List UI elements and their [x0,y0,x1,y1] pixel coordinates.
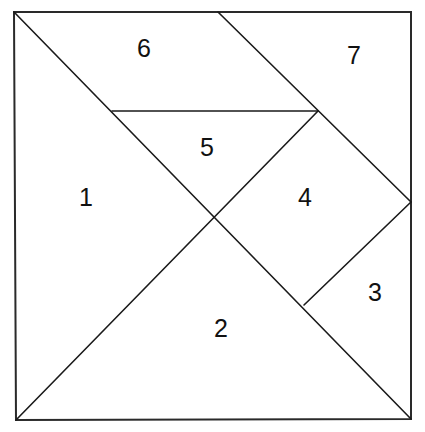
piece-label-1: 1 [79,183,93,211]
tangram-diagram: 1 2 3 4 5 6 7 [0,0,425,432]
piece-label-6: 6 [137,34,151,62]
piece-label-3: 3 [368,278,382,306]
piece-label-2: 2 [214,314,228,342]
piece-label-7: 7 [347,41,361,69]
piece-label-4: 4 [298,183,312,211]
piece-label-5: 5 [200,133,214,161]
